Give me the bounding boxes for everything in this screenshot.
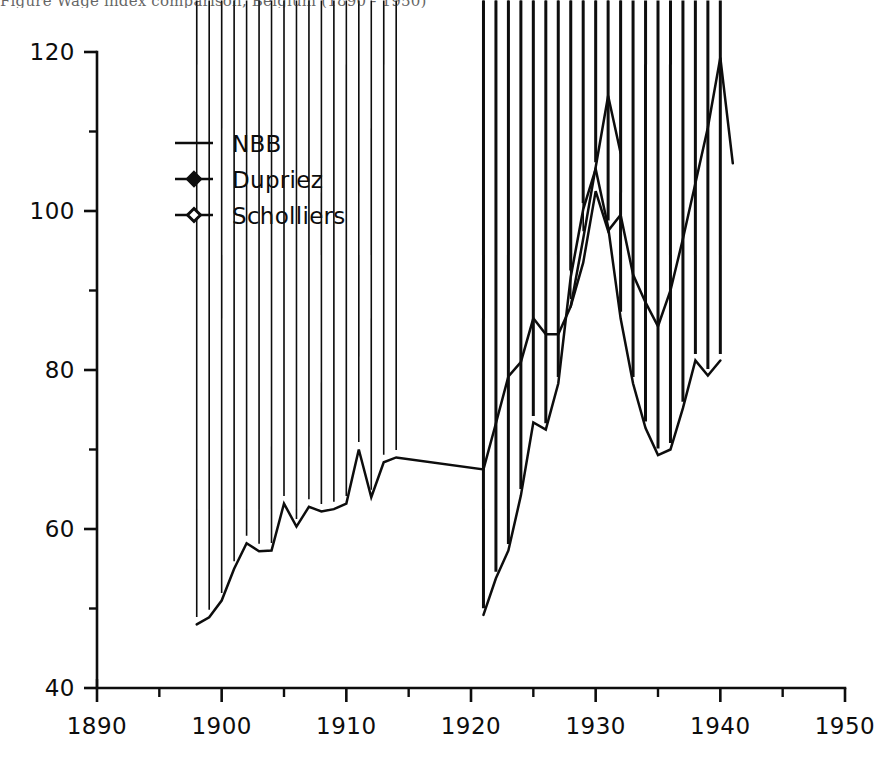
x-tick-label: 1920 — [441, 713, 502, 739]
filled-diamond-icon — [187, 172, 202, 187]
chart-figure: Figure Wage index comparison, Belgium (1… — [0, 0, 891, 776]
chart-legend: NBBDupriezScholliers — [175, 131, 346, 229]
legend-label: Scholliers — [232, 203, 346, 229]
x-tick-label: 1910 — [316, 713, 377, 739]
y-tick-label: 80 — [45, 357, 75, 383]
axes: 4060801001201890190019101920193019401950 — [30, 39, 876, 739]
series-scholliers — [483, 1, 720, 615]
legend-label: NBB — [232, 131, 282, 157]
figure-caption-truncated: Figure Wage index comparison, Belgium (1… — [0, 0, 891, 8]
x-tick-label: 1940 — [690, 713, 751, 739]
y-tick-label: 100 — [30, 198, 75, 224]
line-chart: 4060801001201890190019101920193019401950… — [0, 0, 891, 776]
legend-entry-nbb[interactable]: NBB — [175, 131, 282, 157]
y-tick-label: 60 — [45, 516, 75, 542]
x-tick-label: 1900 — [191, 713, 252, 739]
x-tick-label: 1890 — [67, 713, 128, 739]
series-layer — [197, 1, 733, 625]
y-tick-label: 120 — [30, 39, 75, 65]
y-tick-label: 40 — [45, 675, 75, 701]
x-tick-label: 1930 — [565, 713, 626, 739]
x-tick-label: 1950 — [815, 713, 876, 739]
open-diamond-icon — [188, 209, 201, 222]
legend-entry-scholliers[interactable]: Scholliers — [175, 203, 346, 229]
legend-label: Dupriez — [232, 167, 323, 193]
